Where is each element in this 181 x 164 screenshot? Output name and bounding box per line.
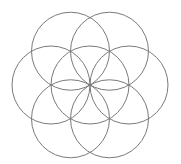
seed-of-life-diagram — [0, 0, 181, 164]
